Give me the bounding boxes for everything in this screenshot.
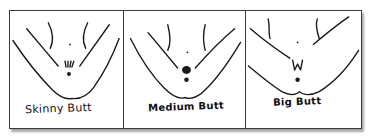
panel-medium: Medium Butt	[123, 11, 245, 128]
panel-big: Big Butt	[245, 11, 361, 128]
comic-strip-frame: Skinny Butt Medium Butt Big Butt	[9, 10, 362, 129]
caption-big: Big Butt	[273, 95, 322, 108]
caption-skinny: Skinny Butt	[25, 101, 92, 116]
big-illustration	[246, 11, 361, 128]
panel-skinny: Skinny Butt	[10, 11, 123, 128]
